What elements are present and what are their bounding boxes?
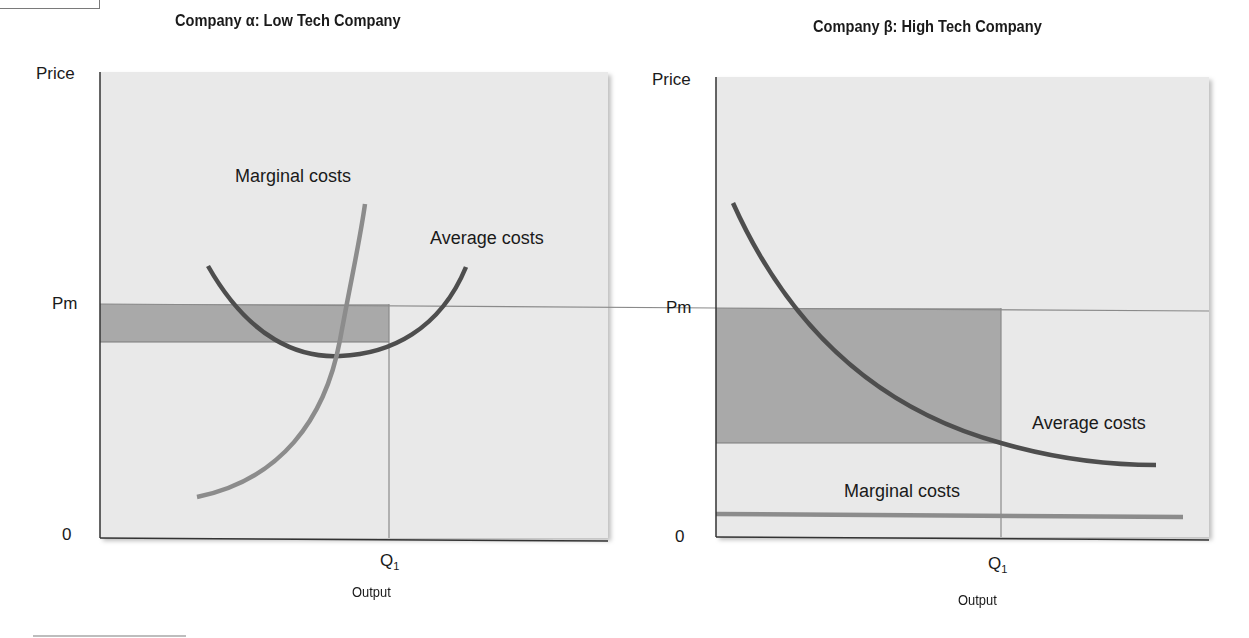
left-mc-label: Marginal costs — [235, 166, 351, 187]
left-q1-tick: Q1 — [380, 551, 399, 572]
right-chart — [716, 77, 1209, 540]
right-y-axis-label: Price — [652, 70, 691, 90]
left-zero-tick: 0 — [62, 525, 71, 545]
left-chart-title: Company α: Low Tech Company — [175, 11, 401, 31]
left-ac-label: Average costs — [430, 228, 544, 249]
right-marginal-cost-line — [716, 514, 1183, 517]
q1-text: Q — [380, 551, 393, 570]
q1-subscript: 1 — [393, 560, 399, 572]
right-q1-tick: Q1 — [988, 554, 1007, 575]
q1-text: Q — [988, 554, 1001, 573]
right-x-axis-label: Output — [958, 591, 997, 608]
right-pm-tick: Pm — [666, 298, 692, 318]
left-x-axis-label: Output — [352, 583, 391, 600]
left-pm-tick: Pm — [52, 294, 78, 314]
left-chart — [100, 72, 716, 541]
right-ac-label: Average costs — [1032, 413, 1146, 434]
right-chart-title: Company β: High Tech Company — [813, 17, 1042, 37]
right-zero-tick: 0 — [675, 527, 684, 547]
charts-canvas — [0, 0, 1249, 638]
right-plot-area — [716, 77, 1209, 537]
right-mc-label: Marginal costs — [844, 481, 960, 502]
q1-subscript: 1 — [1001, 563, 1007, 575]
left-y-axis-label: Price — [36, 64, 75, 84]
right-profit-area — [716, 308, 1001, 443]
